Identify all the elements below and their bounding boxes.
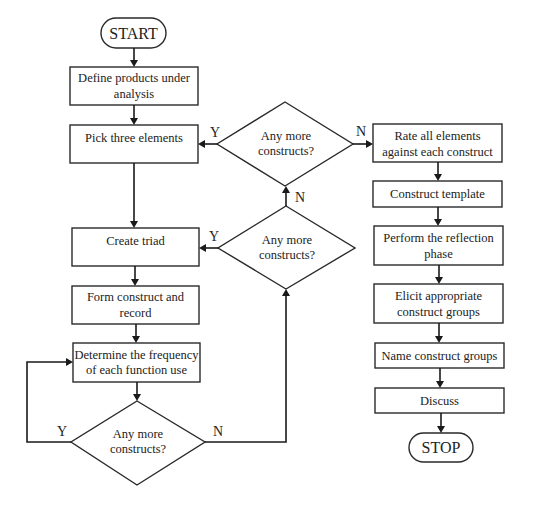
define-products-box: Define products under analysis (70, 67, 198, 105)
flowchart-canvas: START Define products under analysis Pic… (0, 0, 533, 508)
no-label: N (213, 424, 223, 439)
svg-text:Rate all elements: Rate all elements (394, 129, 480, 143)
arrow-down-icon (130, 221, 138, 228)
svg-text:against each construct: against each construct (382, 145, 493, 159)
arrow-down-icon (130, 118, 138, 125)
decision-top: Any more constructs? (217, 102, 353, 186)
arrow-down-icon (435, 336, 443, 343)
determine-frequency-box: Determine the frequency of each function… (73, 343, 200, 382)
name-groups-box: Name construct groups (375, 343, 504, 368)
arrow-down-icon (130, 60, 138, 67)
svg-text:analysis: analysis (114, 87, 154, 101)
svg-text:construct groups: construct groups (397, 305, 480, 319)
rate-elements-box: Rate all elements against each construct (373, 124, 502, 162)
reflection-phase-box: Perform the reflection phase (374, 226, 503, 265)
arrow-down-icon (435, 277, 443, 284)
svg-text:record: record (120, 306, 153, 320)
svg-text:constructs?: constructs? (259, 248, 316, 262)
svg-text:phase: phase (424, 247, 453, 261)
arrow-up-icon (282, 186, 290, 193)
decision-middle: Any more constructs? (218, 206, 355, 289)
start-terminal: START (101, 18, 166, 48)
arrow-right-icon (66, 358, 73, 366)
no-label: N (356, 124, 366, 139)
svg-text:Construct template: Construct template (390, 187, 485, 201)
svg-text:Any more: Any more (261, 129, 312, 143)
form-construct-box: Form construct and record (72, 286, 199, 324)
arrow-up-icon (282, 289, 290, 296)
arrow-left-icon (199, 244, 206, 252)
arrow-left-icon (198, 140, 205, 148)
svg-text:of each function use: of each function use (86, 363, 187, 377)
stop-label: STOP (422, 439, 461, 456)
svg-text:Form construct and: Form construct and (87, 290, 185, 304)
elicit-groups-box: Elicit appropriate construct groups (374, 284, 503, 323)
pick-elements-box: Pick three elements (70, 125, 198, 163)
yes-label: Y (209, 229, 219, 244)
svg-text:constructs?: constructs? (110, 442, 167, 456)
svg-text:Define products under: Define products under (78, 71, 191, 85)
arrow-down-icon (436, 381, 444, 388)
svg-text:Pick three elements: Pick three elements (85, 131, 183, 145)
arrow-down-icon (132, 336, 140, 343)
svg-text:Any more: Any more (262, 233, 313, 247)
create-triad-box: Create triad (72, 228, 199, 266)
start-label: START (109, 25, 158, 42)
svg-text:Name construct groups: Name construct groups (382, 349, 498, 363)
arrow-down-icon (133, 394, 141, 401)
decision-bottom: Any more constructs? (71, 401, 205, 485)
yes-label: Y (210, 125, 220, 140)
svg-text:Perform the reflection: Perform the reflection (383, 231, 494, 245)
svg-text:Determine the frequency: Determine the frequency (74, 348, 199, 362)
svg-text:Create triad: Create triad (106, 234, 165, 248)
arrow-down-icon (131, 279, 139, 286)
arrow-down-icon (434, 174, 442, 181)
arrow-right-icon (366, 140, 373, 148)
yes-label: Y (57, 424, 67, 439)
construct-template-box: Construct template (373, 181, 502, 207)
svg-text:Any more: Any more (113, 427, 164, 441)
arrow-down-icon (434, 219, 442, 226)
arrow-down-icon (437, 426, 445, 433)
discuss-box: Discuss (375, 388, 504, 413)
svg-text:constructs?: constructs? (258, 144, 315, 158)
stop-terminal: STOP (409, 433, 473, 462)
svg-text:Discuss: Discuss (420, 394, 459, 408)
svg-text:Elicit appropriate: Elicit appropriate (395, 289, 483, 303)
no-label: N (295, 190, 305, 205)
